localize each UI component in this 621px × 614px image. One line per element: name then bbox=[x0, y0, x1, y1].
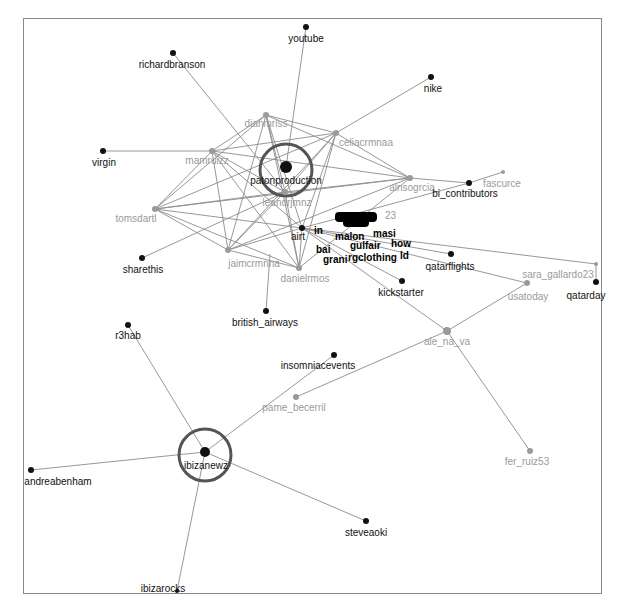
node-virgin[interactable] bbox=[100, 148, 106, 154]
node-label-ibizarocks: ibizarocks bbox=[141, 583, 185, 594]
cluster-fragment: how bbox=[391, 238, 411, 249]
node-sara_gallardo23[interactable] bbox=[594, 262, 598, 266]
node-label-leandrjmnz: leandrjmnz bbox=[263, 197, 312, 208]
node-usatoday[interactable] bbox=[524, 280, 530, 286]
edge-ibizarocks-ibizanewz bbox=[177, 452, 205, 591]
node-tomsdartl[interactable] bbox=[152, 206, 158, 212]
edge-nike-celiacrmnaa bbox=[336, 77, 431, 133]
node-label-virgin: virgin bbox=[92, 157, 116, 168]
edge-layer bbox=[31, 27, 596, 591]
node-label-richardbranson: richardbranson bbox=[139, 59, 206, 70]
node-label-british_airways: british_airways bbox=[232, 317, 298, 328]
node-jaimcrmnna[interactable] bbox=[225, 247, 231, 253]
node-label-bi_contributors: bi_contributors bbox=[432, 188, 498, 199]
node-label-youtube: youtube bbox=[288, 33, 324, 44]
node-british_airways[interactable] bbox=[263, 308, 269, 314]
node-label-dianmrlss: dianmrlss bbox=[245, 118, 288, 129]
node-steveaoki[interactable] bbox=[363, 518, 369, 524]
node-sharethis[interactable] bbox=[139, 255, 145, 261]
node-ale_na_va[interactable] bbox=[443, 327, 451, 335]
node-label-steveaoki: steveaoki bbox=[345, 527, 387, 538]
node-label-danielrmos: danielrmos bbox=[281, 273, 330, 284]
node-ibizanewz[interactable] bbox=[200, 447, 210, 457]
node-qatarflights[interactable] bbox=[448, 251, 454, 257]
node-label-nike: nike bbox=[424, 83, 442, 94]
node-label-kickstarter: kickstarter bbox=[378, 287, 424, 298]
node-label-qatarday: qatarday bbox=[567, 290, 606, 301]
node-label-ibizanewz: ibizanewz bbox=[184, 460, 228, 471]
node-label-sara_gallardo23: sara_gallardo23 bbox=[522, 269, 594, 280]
node-label-patonproduction: patonproduction bbox=[250, 175, 322, 186]
cluster-fragment: gulfair bbox=[350, 240, 381, 251]
node-label-mamruizz: mamruizz bbox=[185, 155, 228, 166]
node-label-celiacrmnaa: celiacrmnaa bbox=[339, 137, 393, 148]
node-label-qatarflights: qatarflights bbox=[426, 261, 475, 272]
edge-ale_na_va-fer_ruiz53 bbox=[447, 331, 530, 451]
node-alnsogrciaa[interactable] bbox=[407, 175, 413, 181]
node-label-usatoday: usatoday bbox=[508, 291, 549, 302]
node-pame_becerril[interactable] bbox=[293, 394, 299, 400]
overlapping-node-blob bbox=[343, 219, 369, 227]
node-andreabenham[interactable] bbox=[28, 467, 34, 473]
node-bi_contributors[interactable] bbox=[466, 180, 472, 186]
node-mamruizz[interactable] bbox=[209, 148, 215, 154]
node-fascurce[interactable] bbox=[501, 170, 505, 174]
node-leandrjmnz[interactable] bbox=[282, 189, 288, 195]
ring-layer bbox=[179, 144, 312, 481]
node-label-r3hab: r3hab bbox=[115, 330, 141, 341]
node-celiacrmnaa[interactable] bbox=[333, 130, 339, 136]
cluster-fragment: 23 bbox=[385, 210, 396, 221]
cluster-fragment: rgclothing bbox=[348, 252, 397, 263]
node-kickstarter[interactable] bbox=[399, 278, 405, 284]
edge-tomsdartl-jaimcrmnna bbox=[155, 209, 228, 250]
node-label-ale_na_va: ale_na_va bbox=[424, 336, 470, 347]
node-danielrmos[interactable] bbox=[296, 265, 302, 271]
cluster-fragment: grani bbox=[323, 254, 347, 265]
node-label-pame_becerril: pame_becerril bbox=[262, 402, 325, 413]
cluster-fragment: ld bbox=[400, 250, 409, 261]
node-label-sharethis: sharethis bbox=[123, 264, 164, 275]
cluster-fragment: in bbox=[314, 225, 323, 236]
node-label-insomniaevents: insomniacevents bbox=[281, 360, 355, 371]
node-r3hab[interactable] bbox=[125, 322, 131, 328]
node-label-tomsdartl: tomsdartl bbox=[115, 213, 156, 224]
node-label-fer_ruiz53: fer_ruiz53 bbox=[505, 456, 549, 467]
node-label-alnsogrciaa: alnsogrcia bbox=[389, 182, 435, 193]
network-graph[interactable] bbox=[0, 0, 621, 614]
node-label-airt: airt bbox=[291, 231, 305, 242]
node-insomniaevents[interactable] bbox=[331, 352, 337, 358]
node-youtube[interactable] bbox=[303, 24, 309, 30]
node-nike[interactable] bbox=[428, 74, 434, 80]
node-fer_ruiz53[interactable] bbox=[527, 448, 533, 454]
node-label-andreabenham: andreabenham bbox=[24, 476, 91, 487]
node-layer bbox=[28, 24, 599, 593]
overlapping-label-cluster[interactable]: in malon masi gulfair how bai grani rgcl… bbox=[313, 210, 425, 262]
node-label-jaimcrmnna: jaimcrmnna bbox=[228, 258, 280, 269]
node-richardbranson[interactable] bbox=[170, 50, 176, 56]
node-patonproduction[interactable] bbox=[280, 161, 292, 173]
